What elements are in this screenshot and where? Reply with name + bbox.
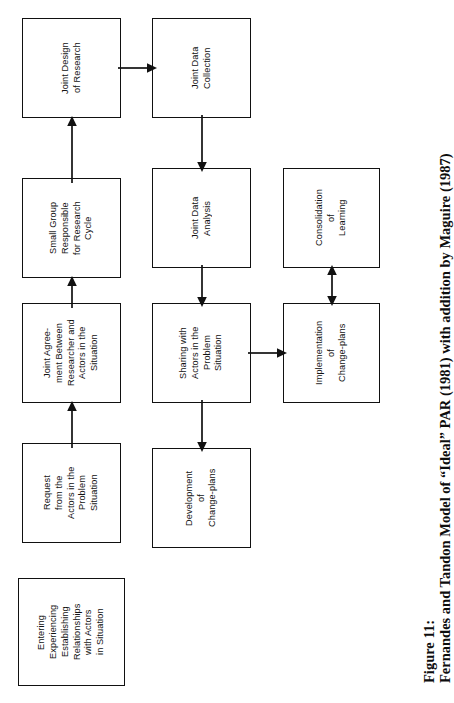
node-implementation-label: Implementation of Change-plans bbox=[284, 304, 379, 402]
node-sharing[interactable]: Sharing with Actors in the Problem Situa… bbox=[152, 303, 251, 403]
node-joint-agreement-label: Joint Agree- ment Between Researcher and… bbox=[23, 304, 120, 402]
edge-sharing-to-development bbox=[192, 400, 212, 453]
node-joint-analysis-label: Joint Data Analysis bbox=[153, 169, 250, 267]
edge-request-to-joint-agreement bbox=[62, 400, 82, 448]
node-implementation[interactable]: Implementation of Change-plans bbox=[283, 303, 380, 403]
edge-small-group-to-joint-design bbox=[62, 115, 82, 183]
node-joint-collection[interactable]: Joint Data Collection bbox=[152, 18, 251, 118]
node-joint-analysis[interactable]: Joint Data Analysis bbox=[152, 168, 251, 268]
node-small-group-label: Small Group Responsible for Research Cyc… bbox=[23, 179, 120, 277]
edge-joint-analysis-to-sharing bbox=[192, 265, 212, 308]
node-development-label: Development of Change-plans bbox=[153, 449, 250, 547]
node-request-label: Request from the Actors in the Problem S… bbox=[23, 444, 120, 542]
node-joint-design[interactable]: Joint Design of Research bbox=[22, 18, 121, 118]
node-small-group[interactable]: Small Group Responsible for Research Cyc… bbox=[22, 178, 121, 278]
node-entering-label: Entering Experiencing Establishing Relat… bbox=[19, 579, 124, 685]
node-joint-agreement[interactable]: Joint Agree- ment Between Researcher and… bbox=[22, 303, 121, 403]
edge-joint-collection-to-joint-analysis bbox=[192, 115, 212, 173]
figure-caption-title: Figure 11: bbox=[421, 620, 438, 683]
node-joint-collection-label: Joint Data Collection bbox=[153, 19, 250, 117]
edge-sharing-to-implementation bbox=[248, 343, 288, 363]
node-entering[interactable]: Entering Experiencing Establishing Relat… bbox=[18, 578, 125, 686]
node-development[interactable]: Development of Change-plans bbox=[152, 448, 251, 548]
figure-caption-body: Fernandes and Tandon Model of “Ideal” PA… bbox=[437, 153, 454, 683]
node-request[interactable]: Request from the Actors in the Problem S… bbox=[22, 443, 121, 543]
node-sharing-label: Sharing with Actors in the Problem Situa… bbox=[153, 304, 250, 402]
node-consolidation[interactable]: Consolidation of Learning bbox=[283, 168, 380, 268]
node-joint-design-label: Joint Design of Research bbox=[23, 19, 120, 117]
edge-implementation-consolidation-double bbox=[322, 264, 342, 307]
node-consolidation-label: Consolidation of Learning bbox=[284, 169, 379, 267]
edge-joint-design-to-joint-collection bbox=[118, 58, 158, 78]
edge-joint-agreement-to-small-group bbox=[62, 275, 82, 308]
